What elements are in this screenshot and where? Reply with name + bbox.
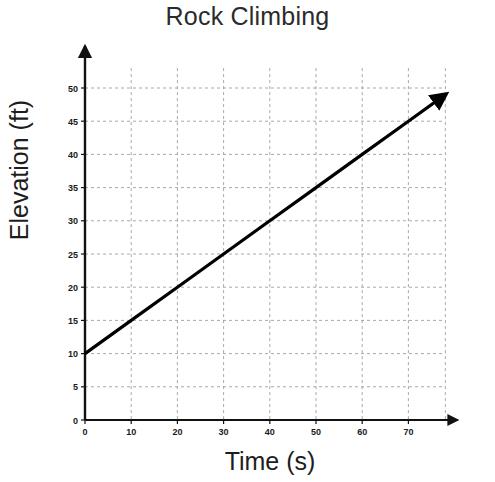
- data-line-series: [85, 95, 445, 354]
- y-tick-label: 30: [68, 216, 78, 226]
- y-tick-label: 15: [68, 316, 78, 326]
- y-tick-label: 20: [68, 283, 78, 293]
- x-tick-label: 70: [403, 427, 413, 437]
- x-tick-label: 10: [126, 427, 136, 437]
- data-line: [85, 95, 445, 354]
- tick-labels: 01020304050607005101520253035404550: [68, 84, 413, 438]
- y-tick-label: 35: [68, 183, 78, 193]
- x-tick-label: 30: [219, 427, 229, 437]
- y-tick-label: 45: [68, 117, 78, 127]
- x-tick-label: 40: [265, 427, 275, 437]
- y-tick-label: 25: [68, 250, 78, 260]
- x-tick-label: 0: [82, 427, 87, 437]
- x-tick-label: 20: [172, 427, 182, 437]
- y-tick-label: 40: [68, 150, 78, 160]
- x-tick-label: 60: [357, 427, 367, 437]
- y-tick-label: 5: [73, 382, 78, 392]
- plot-area: 01020304050607005101520253035404550: [0, 0, 495, 482]
- chart-container: Rock Climbing Elevation (ft) Time (s) 01…: [0, 0, 495, 482]
- y-tick-label: 0: [73, 416, 78, 426]
- y-tick-label: 10: [68, 349, 78, 359]
- y-tick-label: 50: [68, 84, 78, 94]
- tick-marks: [81, 88, 408, 424]
- x-tick-label: 50: [311, 427, 321, 437]
- axis-lines: [85, 46, 457, 420]
